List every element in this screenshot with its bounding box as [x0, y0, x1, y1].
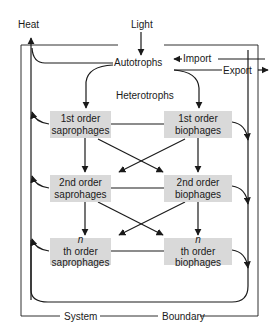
autotrophs-label: Autotrophs — [114, 57, 162, 68]
heat-label: Heat — [18, 19, 39, 30]
box-nth-order-biophages: nth order biophages — [164, 238, 232, 265]
export-label: Export — [223, 65, 252, 76]
box-1st-order-biophages: 1st order biophages — [164, 111, 232, 138]
box-1st-order-saprophages: 1st order saprophages — [50, 111, 111, 138]
diagram-lines — [0, 0, 280, 335]
system-label: System — [64, 311, 97, 322]
box-nth-order-saprophages: nth order saprophages — [50, 238, 111, 265]
boundary-label: Boundary — [162, 311, 205, 322]
box-2nd-order-saprophages: 2nd order saprohages — [50, 175, 111, 202]
import-label: Import — [183, 53, 211, 64]
light-label: Light — [131, 19, 153, 30]
box-2nd-order-biophages: 2nd order biophages — [164, 175, 232, 202]
heterotrophs-label: Heterotrophs — [116, 90, 174, 101]
